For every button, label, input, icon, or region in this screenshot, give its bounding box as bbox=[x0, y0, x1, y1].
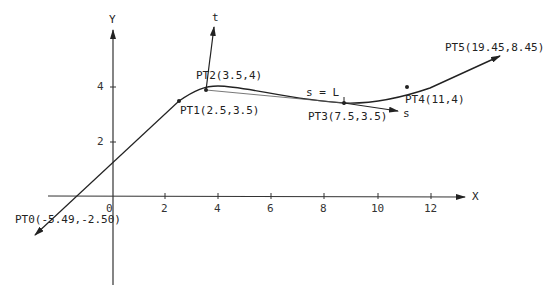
x-tick-6: 6 bbox=[267, 203, 274, 214]
label-pt1: PT1(2.5,3.5) bbox=[180, 105, 259, 116]
label-s-equals-l: s = L bbox=[306, 87, 339, 98]
label-pt4: PT4(11,4) bbox=[405, 94, 465, 105]
x-tick-10: 10 bbox=[371, 203, 384, 214]
label-pt0: PT0(-5.49,-2.50) bbox=[15, 214, 121, 225]
y-axis-label: Y bbox=[109, 14, 116, 25]
y-axis bbox=[110, 30, 116, 285]
label-pt2: PT2(3.5,4) bbox=[196, 70, 262, 81]
x-tick-12: 12 bbox=[424, 203, 437, 214]
x-tick-8: 8 bbox=[320, 203, 327, 214]
x-axis bbox=[48, 193, 465, 199]
label-pt5: PT5(19.45,8.45) bbox=[445, 42, 544, 53]
label-s: s bbox=[403, 108, 410, 119]
x-tick-4: 4 bbox=[214, 203, 221, 214]
y-tick-4: 4 bbox=[97, 81, 104, 92]
label-pt3: PT3(7.5,3.5) bbox=[308, 111, 387, 122]
label-t: t bbox=[212, 12, 219, 23]
y-tick-2: 2 bbox=[97, 136, 104, 147]
x-tick-2: 2 bbox=[161, 203, 168, 214]
x-axis-label: X bbox=[472, 191, 479, 202]
